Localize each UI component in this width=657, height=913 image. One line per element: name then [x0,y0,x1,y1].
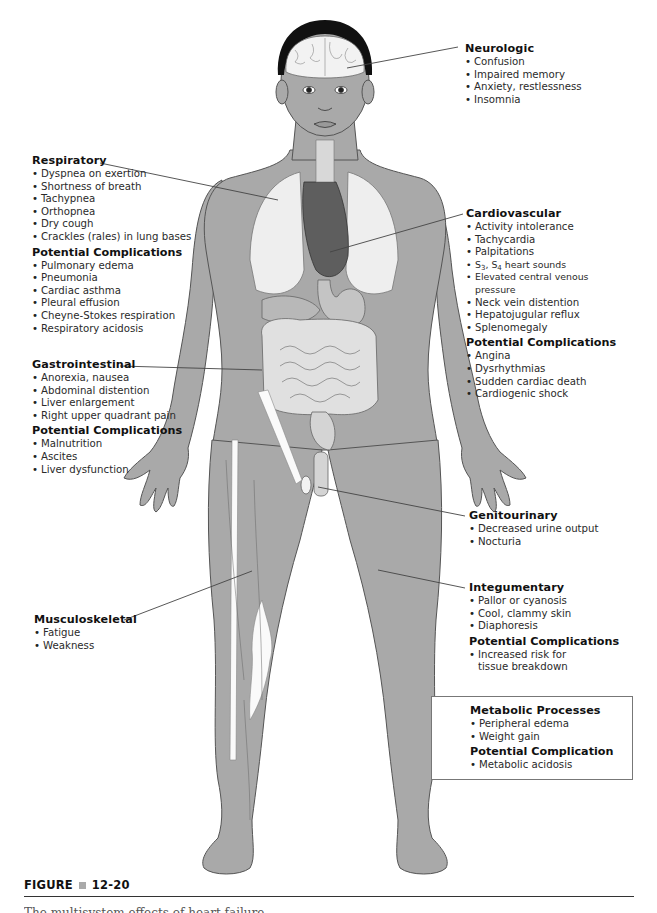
list-item: Pleural effusion [32,297,207,310]
list-item: Crackles (rales) in lung bases [32,231,207,244]
list-item: Palpitations [466,246,646,259]
list-item: Cool, clammy skin [469,608,649,621]
panel-title: Respiratory [32,154,207,168]
symptom-list: Activity intolerance Tachycardia Palpita… [466,221,646,334]
complications-list: Angina Dysrhythmias Sudden cardiac death… [466,350,646,400]
list-item: Liver dysfunction [32,464,207,477]
complications-title: Potential Complications [469,635,649,649]
panel-gastrointestinal: Gastrointestinal Anorexia, nausea Abdomi… [32,358,207,476]
list-item: Tachycardia [466,234,646,247]
list-item: Malnutrition [32,438,207,451]
complications-list: Increased risk for tissue breakdown [469,649,649,674]
list-item: Decreased urine output [469,523,649,536]
symptom-list: Pallor or cyanosis Cool, clammy skin Dia… [469,595,649,633]
complications-list: Malnutrition Ascites Liver dysfunction [32,438,207,476]
list-item: Peripheral edema [470,718,630,731]
panel-musculoskeletal: Musculoskeletal Fatigue Weakness [34,613,164,652]
panel-title: Integumentary [469,581,649,595]
complications-list: Metabolic acidosis [470,759,630,772]
list-item: Respiratory acidosis [32,323,207,336]
panel-title: Neurologic [465,42,645,56]
trachea [316,140,334,182]
list-item: Metabolic acidosis [470,759,630,772]
list-item: Tachypnea [32,193,207,206]
figure-caption: The multisystem effects of heart failure… [24,905,268,913]
list-item: Nocturia [469,536,649,549]
list-item: Hepatojugular reflux [466,309,646,322]
list-item: Anxiety, restlessness [465,81,645,94]
list-item: Weakness [34,640,164,653]
list-item: Anorexia, nausea [32,372,207,385]
list-item: Ascites [32,451,207,464]
panel-integumentary: Integumentary Pallor or cyanosis Cool, c… [469,581,649,674]
symptom-list: Confusion Impaired memory Anxiety, restl… [465,56,645,106]
figure-label: FIGURE12-20 [24,878,130,892]
panel-title: Metabolic Processes [470,704,630,718]
list-item: Sudden cardiac death [466,376,646,389]
list-item: Orthopnea [32,206,207,219]
list-item: Pulmonary edema [32,260,207,273]
list-item: Confusion [465,56,645,69]
list-item: Pallor or cyanosis [469,595,649,608]
panel-metabolic: Metabolic Processes Peripheral edema Wei… [470,704,630,772]
complications-title: Potential Complications [466,336,646,350]
list-item: Cardiac asthma [32,285,207,298]
list-item: Neck vein distention [466,297,646,310]
list-item: Cardiogenic shock [466,388,646,401]
list-item: Increased risk for tissue breakdown [469,649,598,674]
list-item: Weight gain [470,731,630,744]
panel-neurologic: Neurologic Confusion Impaired memory Anx… [465,42,645,106]
list-item: Shortness of breath [32,181,207,194]
panel-title: Cardiovascular [466,207,646,221]
list-item: Elevated central venous pressure [466,271,595,296]
list-item: Right upper quadrant pain [32,410,207,423]
symptom-list: Decreased urine output Nocturia [469,523,649,548]
list-item: Fatigue [34,627,164,640]
list-item: Cheyne-Stokes respiration [32,310,207,323]
square-bullet-icon [79,882,86,889]
panel-genitourinary: Genitourinary Decreased urine output Noc… [469,509,649,548]
list-item: Liver enlargement [32,397,207,410]
list-item: Dry cough [32,218,207,231]
list-item: Dyspnea on exertion [32,168,207,181]
panel-title: Musculoskeletal [34,613,164,627]
list-item: Impaired memory [465,69,645,82]
panel-cardiovascular: Cardiovascular Activity intolerance Tach… [466,207,646,401]
list-item: Pneumonia [32,272,207,285]
list-item: Dysrhythmias [466,363,646,376]
list-item: Splenomegaly [466,322,646,335]
list-item: Abdominal distention [32,385,207,398]
panel-title: Gastrointestinal [32,358,207,372]
complications-title: Potential Complications [32,246,207,260]
list-item: Activity intolerance [466,221,646,234]
symptom-list: Peripheral edema Weight gain [470,718,630,743]
complications-title: Potential Complications [32,424,207,438]
list-item: Diaphoresis [469,620,649,633]
panel-respiratory: Respiratory Dyspnea on exertion Shortnes… [32,154,207,335]
symptom-list: Dyspnea on exertion Shortness of breath … [32,168,207,244]
list-item: Angina [466,350,646,363]
panel-title: Genitourinary [469,509,649,523]
symptom-list: Anorexia, nausea Abdominal distention Li… [32,372,207,422]
caption-divider [24,896,634,897]
list-item-heart-sounds: S3, S4 heart sounds [466,259,646,272]
complications-title: Potential Complication [470,745,630,759]
complications-list: Pulmonary edema Pneumonia Cardiac asthma… [32,260,207,336]
list-item: Insomnia [465,94,645,107]
symptom-list: Fatigue Weakness [34,627,164,652]
